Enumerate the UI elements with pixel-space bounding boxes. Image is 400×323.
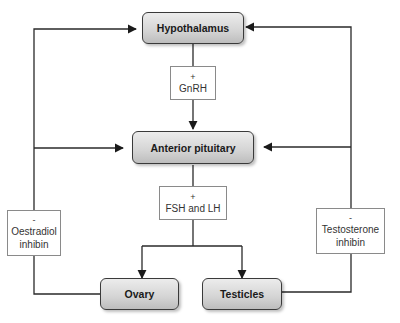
- testicles-node: Testicles: [202, 278, 282, 310]
- fsh-lh-text: FSH and LH: [165, 202, 220, 215]
- gnrh-text: GnRH: [179, 82, 207, 95]
- testicles-label: Testicles: [220, 288, 264, 300]
- inhibin-text: inhibin: [20, 238, 49, 251]
- inhibit-sign: -: [33, 215, 36, 225]
- fsh-lh-label-box: + FSH and LH: [159, 186, 227, 220]
- anterior-pituitary-node: Anterior pituitary: [132, 131, 254, 164]
- stimulate-sign: +: [190, 72, 195, 82]
- hypothalamus-node: Hypothalamus: [142, 12, 244, 44]
- oestradiol-text: Oestradiol: [11, 225, 57, 238]
- ovary-node: Ovary: [100, 278, 179, 310]
- inhibit-sign: -: [349, 213, 352, 223]
- anterior-pituitary-label: Anterior pituitary: [150, 142, 235, 154]
- inhibin-text: inhibin: [336, 236, 365, 249]
- stimulate-sign: +: [190, 192, 195, 202]
- oestradiol-inhibin-label-box: - Oestradiol inhibin: [7, 210, 61, 256]
- testosterone-text: Testosterone: [322, 223, 379, 236]
- ovary-label: Ovary: [125, 288, 155, 300]
- gnrh-label-box: + GnRH: [170, 66, 216, 100]
- testosterone-inhibin-label-box: - Testosterone inhibin: [316, 208, 385, 254]
- hypothalamus-label: Hypothalamus: [157, 22, 229, 34]
